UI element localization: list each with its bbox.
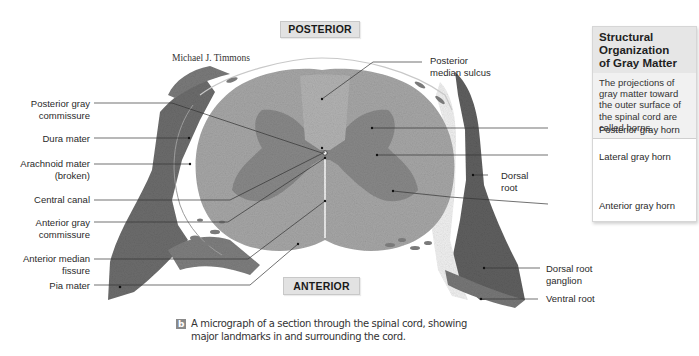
caption-line-2: major landmarks in and surrounding the c… — [176, 331, 476, 344]
label-dura-mater: Dura mater — [42, 133, 90, 145]
anterior-orientation-label: ANTERIOR — [283, 277, 360, 295]
label-posterior-gray-commissure: Posterior graycommissure — [31, 98, 90, 121]
figure-caption: bA micrograph of a section through the s… — [176, 318, 476, 343]
spinal-cord — [196, 69, 455, 251]
structural-organization-box: Structural Organization of Gray Matter T… — [592, 26, 697, 222]
label-dorsal-root-ganglion: Dorsal rootganglion — [546, 263, 592, 286]
posterior-orientation-label: POSTERIOR — [280, 21, 360, 38]
infobox-title: Structural Organization of Gray Matter — [593, 27, 696, 73]
label-anterior-gray-commissure: Anterior graycommissure — [36, 217, 90, 240]
infobox-item-lateral-gray-horn: Lateral gray horn — [548, 151, 671, 162]
infobox-item-posterior-gray-horn: Posterior gray horn — [548, 124, 680, 135]
label-anterior-median-fissure: Anterior medianfissure — [23, 253, 90, 276]
label-dorsal-root: Dorsalroot — [501, 170, 528, 193]
caption-line-1: A micrograph of a section through the sp… — [191, 318, 467, 329]
label-pia-mater: Pia mater — [49, 280, 90, 292]
figure: POSTERIOR ANTERIOR Michael J. Timmons Po… — [0, 0, 699, 356]
label-ventral-root: Ventral root — [546, 293, 595, 305]
label-central-canal: Central canal — [34, 194, 90, 206]
panel-badge: b — [176, 319, 186, 329]
label-arachnoid-mater: Arachnoid mater(broken) — [20, 158, 90, 181]
label-posterior-median-sulcus: Posteriormedian sulcus — [430, 55, 491, 78]
photo-credit: Michael J. Timmons — [172, 53, 250, 63]
infobox-item-anterior-gray-horn: Anterior gray horn — [548, 200, 675, 211]
